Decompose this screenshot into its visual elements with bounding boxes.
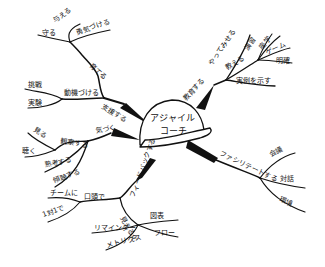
facilitate-child-dialogue: 対話 xyxy=(280,176,294,183)
teach-child-clarity: 明確 xyxy=(276,58,290,65)
motivate-child-experiment: 実験 xyxy=(28,100,42,107)
visualize-child-reminder: リマインダー xyxy=(94,225,136,232)
motivate-child-challenge: 挑戦 xyxy=(28,82,42,89)
center-title-line1: アジャイル xyxy=(150,114,195,123)
center-title-line2: コーチ xyxy=(160,127,187,136)
observe-child-listen: 聴く xyxy=(22,148,36,155)
visualize-child-chart: 図表 xyxy=(150,213,164,220)
nurture-child-protect: 守る xyxy=(42,30,56,37)
verbal-label: 口頭で xyxy=(84,194,105,201)
example-label: 実例を示す xyxy=(236,78,271,85)
visualize-child-flow: フロー xyxy=(154,230,175,237)
mind-map: アジャイル コーチ 支援する 動機づける 挑戦 実験 育てる 守る 与える 勇気… xyxy=(0,0,325,267)
verbal-child-team: チームに xyxy=(50,190,78,197)
motivate-label: 動機づける xyxy=(64,90,99,97)
